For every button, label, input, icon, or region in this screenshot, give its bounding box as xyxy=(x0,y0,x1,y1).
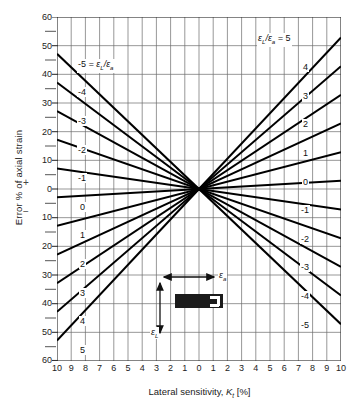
series-label-right-0: 0 xyxy=(302,177,309,187)
series-label-left-2: 2 xyxy=(79,259,86,269)
series-label-left-neg2: -2 xyxy=(77,145,87,155)
series-label-left-neg5: -5 = εL/εa xyxy=(77,59,115,73)
x-axis-title-prefix: Lateral sensitivity, xyxy=(149,386,226,397)
series-label-left-1: 1 xyxy=(79,230,86,240)
series-label-text: 5 xyxy=(286,33,291,43)
series-label-right-5: εL/εa = 5 xyxy=(257,33,292,47)
series-label-right-3: 3 xyxy=(302,91,309,101)
x-axis-title: Lateral sensitivity, Kt [%] xyxy=(57,386,342,399)
series-label-right-2: 2 xyxy=(302,119,309,129)
chart-root: Error % of axial strain + − 60 50 40 30 … xyxy=(0,0,360,409)
axial-strain-label: εa xyxy=(218,270,227,282)
x-axis-title-suffix: [%] xyxy=(234,386,250,397)
lateral-strain-label: εL xyxy=(150,327,159,339)
series-label-right-neg1: -1 xyxy=(300,205,310,215)
series-label-right-1: 1 xyxy=(302,148,309,158)
series-label-right-neg3: -3 xyxy=(300,262,310,272)
strain-gauge-inset: εa εL xyxy=(142,255,262,350)
series-label-left-neg4: -4 xyxy=(77,87,87,97)
series-label-left-4: 4 xyxy=(79,316,86,326)
x-axis-tick-labels: 10 9 8 7 6 5 4 3 2 1 0 1 2 3 4 5 6 7 8 9… xyxy=(0,363,360,379)
series-label-right-neg4: -4 xyxy=(300,291,310,301)
series-label-left-neg3: -3 xyxy=(77,116,87,126)
series-label-left-0: 0 xyxy=(79,202,86,212)
series-label-left-3: 3 xyxy=(79,288,86,298)
y-axis-major-ticks xyxy=(50,17,59,361)
series-label-left-neg1: -1 xyxy=(77,173,87,183)
series-label-right-4: 4 xyxy=(302,62,309,72)
x-tick: 10 xyxy=(331,363,351,373)
gauge-tab-bridge xyxy=(217,296,220,306)
series-label-text: -5 xyxy=(78,59,86,69)
plot-area: -5 = εL/εa -4 -3 -2 -1 0 1 2 3 4 5 εL/εa… xyxy=(57,17,341,361)
series-label-right-neg5: -5 xyxy=(300,320,310,330)
series-label-right-neg2: -2 xyxy=(300,234,310,244)
series-label-left-5: 5 xyxy=(79,345,86,355)
